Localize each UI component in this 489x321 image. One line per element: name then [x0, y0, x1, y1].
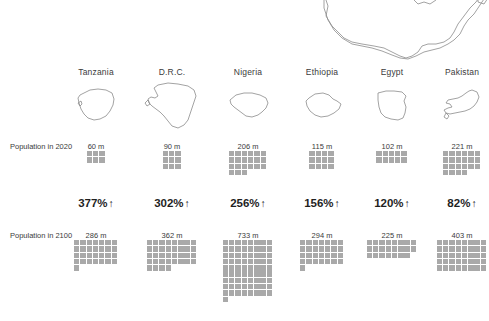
growth-value: 82%: [447, 197, 470, 209]
waffle-cell: [242, 170, 247, 175]
waffle-cell: [260, 265, 265, 270]
waffle-cell: [223, 246, 228, 251]
waffle-cell: [443, 170, 448, 175]
waffle-cell: [267, 265, 272, 270]
waffle-cell: [99, 246, 104, 251]
waffle-cell: [229, 164, 234, 169]
waffle-cell: [376, 157, 381, 162]
waffle-cell: [331, 259, 336, 264]
waffle-cell: [248, 284, 253, 289]
arrow-up-icon: ↑: [471, 197, 476, 209]
waffle-cell: [313, 259, 318, 264]
waffle-cell: [223, 265, 228, 270]
waffle-cell: [105, 240, 110, 245]
waffle-cell: [260, 271, 265, 276]
waffle-cell: [392, 253, 397, 258]
waffle-cell: [338, 259, 343, 264]
waffle-cell: [147, 265, 152, 270]
waffle-cell: [93, 246, 98, 251]
waffle-cell: [395, 157, 400, 162]
waffle-cell: [254, 290, 259, 295]
country-column-drc: D.R.C.90 m302%↑362 m: [132, 0, 212, 321]
waffle-grid: [147, 240, 197, 271]
waffle-cell: [229, 151, 234, 156]
waffle-cell: [242, 151, 247, 156]
country-name-label: Pakistan: [422, 67, 489, 77]
waffle-cell: [223, 240, 228, 245]
waffle-cell: [175, 157, 180, 162]
country-outline-icon: [208, 79, 288, 131]
waffle-cell: [166, 265, 171, 270]
waffle-cell: [99, 151, 104, 156]
waffle-grid: [74, 240, 118, 271]
waffle-cell: [248, 271, 253, 276]
arrow-up-icon: ↑: [405, 197, 410, 209]
waffle-grid: [443, 151, 481, 176]
waffle-cell: [172, 240, 177, 245]
waffle-cell: [254, 265, 259, 270]
waffle-cell: [392, 246, 397, 251]
waffle-cell: [99, 240, 104, 245]
waffle-cell: [328, 157, 333, 162]
waffle-cell: [235, 284, 240, 289]
waffle-cell: [338, 253, 343, 258]
waffle-cell: [254, 284, 259, 289]
waffle-cell: [184, 246, 189, 251]
population-2100-value: 362 m: [132, 231, 212, 240]
waffle-cell: [223, 259, 228, 264]
waffle-cell: [191, 246, 196, 251]
waffle-cell: [456, 246, 461, 251]
waffle-cell: [474, 259, 479, 264]
waffle-cell: [267, 253, 272, 258]
waffle-cell: [267, 259, 272, 264]
waffle-2100-1: [132, 240, 212, 271]
waffle-cell: [379, 240, 384, 245]
waffle-cell: [449, 246, 454, 251]
waffle-cell: [242, 271, 247, 276]
country-column-pakistan: Pakistan221 m82%↑403 m: [422, 0, 489, 321]
waffle-cell: [223, 278, 228, 283]
waffle-cell: [367, 253, 372, 258]
waffle-grid: [163, 151, 182, 170]
waffle-cell: [449, 164, 454, 169]
waffle-cell: [456, 240, 461, 245]
arrow-up-icon: ↑: [335, 197, 340, 209]
waffle-cell: [456, 170, 461, 175]
waffle-cell: [229, 253, 234, 258]
waffle-cell: [443, 246, 448, 251]
waffle-cell: [331, 246, 336, 251]
waffle-cell: [229, 240, 234, 245]
waffle-cell: [481, 259, 486, 264]
waffle-2020-0: [56, 151, 136, 164]
waffle-cell: [242, 265, 247, 270]
waffle-cell: [456, 265, 461, 270]
waffle-cell: [112, 253, 117, 258]
population-2100-value: 294 m: [282, 231, 362, 240]
waffle-cell: [306, 253, 311, 258]
country-name-label: Nigeria: [208, 67, 288, 77]
country-outline-icon: [422, 79, 489, 131]
waffle-cell: [87, 253, 92, 258]
waffle-cell: [248, 265, 253, 270]
waffle-cell: [87, 157, 92, 162]
waffle-cell: [235, 170, 240, 175]
waffle-cell: [99, 157, 104, 162]
waffle-cell: [74, 253, 79, 258]
growth-percentage: 302%↑: [132, 197, 212, 209]
waffle-cell: [389, 157, 394, 162]
waffle-cell: [153, 240, 158, 245]
waffle-cell: [437, 240, 442, 245]
waffle-cell: [383, 151, 388, 156]
growth-value: 120%: [374, 197, 403, 209]
waffle-cell: [316, 151, 321, 156]
country-outline-icon: [56, 79, 136, 131]
waffle-cell: [235, 240, 240, 245]
waffle-cell: [322, 151, 327, 156]
population-2020-value: 102 m: [352, 142, 432, 151]
population-2020-value: 115 m: [282, 142, 362, 151]
waffle-cell: [184, 253, 189, 258]
waffle-cell: [229, 259, 234, 264]
country-name-label: Egypt: [352, 67, 432, 77]
waffle-cell: [242, 240, 247, 245]
waffle-2100-0: [56, 240, 136, 271]
